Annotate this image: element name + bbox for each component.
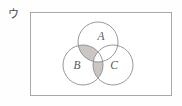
universe-rectangle: [31, 13, 172, 96]
venn-figure-container: ウ: [0, 0, 182, 106]
set-label-b: B: [73, 59, 80, 71]
set-label-a: A: [96, 30, 105, 42]
set-label-c: C: [110, 59, 118, 71]
venn-diagram-svg: A B C: [0, 0, 182, 106]
